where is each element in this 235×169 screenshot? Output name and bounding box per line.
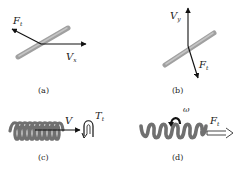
torque-icon <box>84 121 93 137</box>
force-t-label: Ft <box>198 59 209 71</box>
velocity-y-label: Vy <box>170 10 181 23</box>
omega-label: ω <box>183 105 190 114</box>
rod-highlight <box>19 28 67 56</box>
panel-b: Vy Ft (b) <box>165 8 214 95</box>
caption-d: (d) <box>172 153 183 162</box>
force-t-label: Ft <box>12 15 23 27</box>
velocity-label: V <box>65 115 74 126</box>
torque-inner <box>87 125 90 134</box>
force-t-arrow <box>188 46 198 78</box>
helix <box>141 124 206 138</box>
force-t-arrow <box>12 29 41 44</box>
caption-b: (b) <box>172 86 183 95</box>
helix <box>10 123 63 140</box>
panel-c: V Tt (c) <box>10 110 105 162</box>
velocity-x-label: Vx <box>66 51 77 63</box>
physics-diagram: Ft Vx (a) Vy Ft (b) V Tt (c) <box>0 0 235 169</box>
panel-a: Ft Vx (a) <box>12 15 86 95</box>
force-t-label: Ft <box>209 115 220 127</box>
torque-label: Tt <box>95 110 105 122</box>
caption-a: (a) <box>38 86 49 95</box>
hollow-force-arrow <box>207 128 233 138</box>
caption-c: (c) <box>38 153 49 162</box>
panel-d: ω Ft (d) <box>141 105 233 162</box>
